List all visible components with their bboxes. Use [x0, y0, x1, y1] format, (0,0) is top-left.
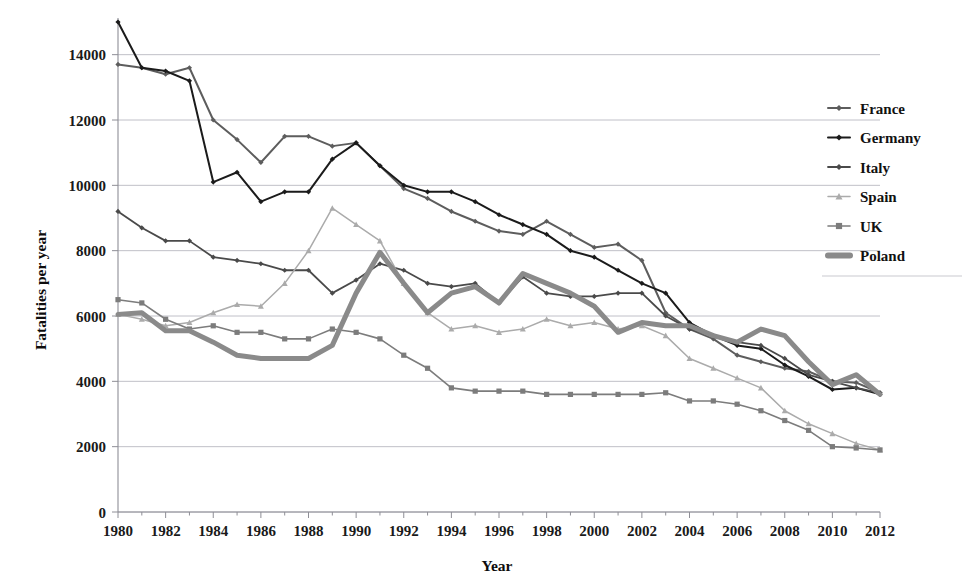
legend-label: Poland — [860, 248, 906, 264]
data-point — [830, 444, 835, 449]
x-tick-label: 2010 — [817, 523, 847, 539]
data-point — [306, 336, 311, 341]
legend-label: France — [860, 101, 905, 117]
y-tick-label: 12000 — [69, 113, 107, 129]
x-tick-label: 1984 — [198, 523, 229, 539]
y-tick-label: 4000 — [76, 374, 106, 390]
data-point — [377, 336, 382, 341]
data-point — [663, 390, 668, 395]
data-point — [496, 389, 501, 394]
legend-label: Germany — [860, 130, 921, 146]
data-point — [639, 392, 644, 397]
x-axis-tick-labels: 1980198219841986198819901992199419961998… — [103, 523, 895, 539]
y-tick-label: 2000 — [76, 439, 106, 455]
x-tick-label: 2004 — [675, 523, 706, 539]
data-point — [282, 336, 287, 341]
data-point — [735, 402, 740, 407]
data-point — [854, 445, 859, 450]
x-tick-label: 1980 — [103, 523, 133, 539]
data-point — [711, 398, 716, 403]
x-tick-label: 1992 — [389, 523, 419, 539]
data-point — [877, 447, 882, 452]
legend-label: Italy — [860, 160, 891, 176]
x-tick-label: 1988 — [294, 523, 324, 539]
y-axis-title: Fatalities per year — [32, 230, 49, 350]
data-point — [449, 385, 454, 390]
data-point — [568, 392, 573, 397]
x-tick-label: 2012 — [865, 523, 895, 539]
data-point — [544, 392, 549, 397]
x-tick-label: 2002 — [627, 523, 657, 539]
data-point — [234, 330, 239, 335]
data-point — [615, 392, 620, 397]
legend-label: Spain — [860, 189, 897, 205]
y-tick-label: 10000 — [69, 178, 107, 194]
y-tick-label: 8000 — [76, 243, 106, 259]
data-point — [115, 297, 120, 302]
data-point — [258, 330, 263, 335]
x-tick-label: 2008 — [770, 523, 800, 539]
x-tick-label: 1990 — [341, 523, 371, 539]
data-point — [163, 317, 168, 322]
data-point — [211, 323, 216, 328]
x-tick-label: 2006 — [722, 523, 753, 539]
x-tick-label: 1996 — [484, 523, 515, 539]
data-point — [592, 392, 597, 397]
data-point — [354, 330, 359, 335]
legend-swatch-marker — [836, 223, 842, 229]
y-tick-label: 0 — [99, 505, 107, 521]
data-point — [139, 300, 144, 305]
data-point — [687, 398, 692, 403]
chart-container: 02000400060008000100001200014000 1980198… — [0, 0, 966, 587]
y-tick-label: 14000 — [69, 47, 107, 63]
data-point — [806, 428, 811, 433]
legend-label: UK — [860, 219, 883, 235]
data-point — [425, 366, 430, 371]
data-point — [520, 389, 525, 394]
data-point — [401, 353, 406, 358]
x-axis-title: Year — [482, 557, 513, 574]
data-point — [473, 389, 478, 394]
data-point — [782, 418, 787, 423]
line-chart: 02000400060008000100001200014000 1980198… — [0, 0, 966, 587]
y-tick-label: 6000 — [76, 309, 106, 325]
x-tick-label: 1986 — [246, 523, 277, 539]
x-tick-label: 1994 — [436, 523, 467, 539]
x-tick-label: 2000 — [579, 523, 609, 539]
x-tick-label: 1982 — [151, 523, 181, 539]
x-tick-label: 1998 — [532, 523, 562, 539]
data-point — [330, 326, 335, 331]
data-point — [758, 408, 763, 413]
